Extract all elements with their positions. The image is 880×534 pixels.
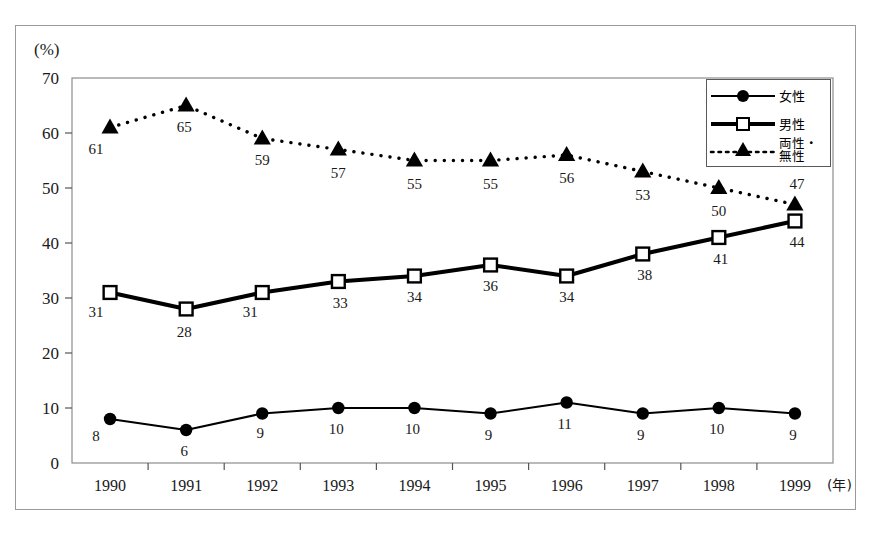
legend-item-bisexual-asexual[interactable]: 両性・ 無性	[707, 136, 832, 164]
data-point-label: 6	[180, 443, 188, 459]
data-point-marker	[484, 407, 496, 419]
data-point-label: 59	[255, 152, 270, 168]
data-point-label: 50	[711, 203, 726, 219]
data-point-marker	[636, 248, 649, 261]
data-point-label: 65	[177, 119, 192, 135]
legend-label-female: 女性	[779, 90, 805, 103]
y-tick-label: 40	[42, 234, 59, 253]
y-tick-label: 20	[42, 344, 59, 363]
data-point-label: 47	[789, 176, 805, 192]
data-point-label: 10	[329, 421, 344, 437]
legend-sample-male	[707, 111, 779, 137]
data-point-label: 8	[92, 428, 100, 444]
data-point-label: 55	[407, 176, 422, 192]
data-point-marker	[256, 407, 268, 419]
x-tick-label: 1990	[94, 477, 126, 494]
data-point-label: 53	[635, 187, 650, 203]
data-point-marker	[408, 270, 421, 283]
data-point-label: 9	[637, 427, 645, 443]
data-point-marker	[713, 402, 725, 414]
x-tick-label: 1995	[475, 477, 507, 494]
x-tick-label: 1994	[398, 477, 430, 494]
y-tick-label: 70	[42, 69, 59, 88]
y-tick-label: 50	[42, 179, 59, 198]
data-point-label: 61	[89, 141, 104, 157]
data-point-marker	[332, 402, 344, 414]
data-point-label: 10	[405, 421, 420, 437]
legend-label-male: 男性	[779, 118, 805, 131]
data-point-label: 38	[637, 267, 652, 283]
data-point-label: 57	[331, 165, 347, 181]
data-point-marker	[180, 424, 192, 436]
data-point-marker	[712, 231, 725, 244]
data-point-marker	[560, 270, 573, 283]
x-tick-label: 1996	[551, 477, 583, 494]
data-point-marker	[256, 286, 269, 299]
y-tick-label: 0	[51, 454, 60, 473]
data-point-marker	[789, 215, 802, 228]
data-point-marker	[104, 413, 116, 425]
data-point-marker	[104, 286, 117, 299]
x-tick-label: 1999	[779, 477, 811, 494]
x-tick-label: 1997	[627, 477, 659, 494]
data-point-marker	[484, 259, 497, 272]
x-tick-label: 1991	[170, 477, 202, 494]
data-point-label: 56	[559, 170, 575, 186]
legend-item-female[interactable]: 女性	[707, 82, 832, 110]
chart-legend: 女性 男性 両性・ 無性	[706, 79, 831, 167]
data-point-label: 11	[557, 416, 571, 432]
data-point-label: 41	[713, 251, 728, 267]
data-point-label: 28	[177, 324, 192, 340]
data-point-marker	[180, 303, 193, 316]
data-point-label: 9	[485, 427, 493, 443]
data-point-marker	[408, 402, 420, 414]
data-point-label: 34	[559, 289, 575, 305]
legend-item-male[interactable]: 男性	[707, 110, 832, 138]
data-point-marker	[637, 407, 649, 419]
y-tick-label: 10	[42, 399, 59, 418]
y-tick-label: 30	[42, 289, 59, 308]
data-point-label: 31	[89, 304, 104, 320]
data-point-label: 31	[243, 304, 258, 320]
legend-sample-female	[707, 83, 779, 109]
x-tick-label: 1992	[246, 477, 278, 494]
data-point-marker	[332, 275, 345, 288]
data-point-label: 9	[257, 425, 265, 441]
data-point-label: 36	[483, 278, 499, 294]
legend-sample-bisexual-asexual	[707, 137, 779, 163]
data-point-label: 34	[407, 289, 423, 305]
legend-label-bisexual-asexual: 両性・ 無性	[779, 137, 818, 163]
data-point-label: 33	[333, 295, 348, 311]
data-point-label: 55	[483, 176, 498, 192]
y-tick-label: 60	[42, 124, 59, 143]
x-axis-unit-label: (年)	[827, 477, 852, 493]
data-point-label: 9	[789, 427, 797, 443]
x-tick-label: 1993	[322, 477, 354, 494]
x-tick-label: 1998	[703, 477, 735, 494]
data-point-marker	[789, 407, 801, 419]
data-point-marker	[560, 396, 572, 408]
data-point-label: 10	[709, 421, 724, 437]
data-point-label: 44	[789, 234, 805, 250]
chart-page: (%) 010203040506070199019911992199319941…	[0, 0, 880, 534]
